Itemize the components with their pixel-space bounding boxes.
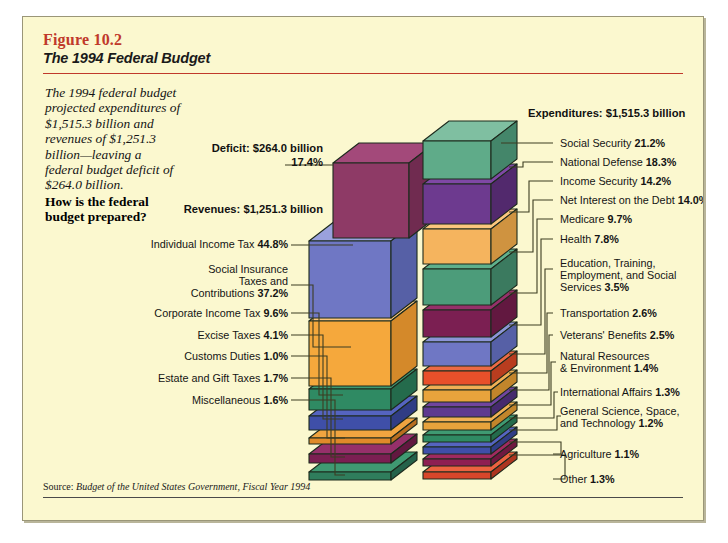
- label-health: Health 7.8%: [560, 233, 619, 245]
- figure-panel: Figure 10.2 The 1994 Federal Budget The …: [22, 16, 704, 521]
- label-national-defense: National Defense 18.3%: [560, 156, 676, 168]
- label-income-security: Income Security 14.2%: [560, 175, 671, 187]
- label-estate-gift-taxes: Estate and Gift Taxes 1.7%: [133, 372, 288, 384]
- bottom-rule: [43, 497, 683, 498]
- label-miscellaneous: Miscellaneous 1.6%: [133, 394, 288, 406]
- label-general-science: General Science, Space, and Technology 1…: [560, 405, 679, 429]
- label-excise-taxes: Excise Taxes 4.1%: [133, 329, 288, 341]
- label-international-affairs: International Affairs 1.3%: [560, 386, 680, 398]
- label-social-security: Social Security 21.2%: [560, 137, 665, 149]
- deficit-heading: Deficit: $264.0 billion 17.4%: [173, 142, 323, 169]
- bar-social-security: [423, 121, 517, 179]
- label-agriculture: Agriculture 1.1%: [560, 448, 639, 460]
- label-veterans-benefits: Veterans' Benefits 2.5%: [560, 329, 674, 341]
- label-transportation: Transportation 2.6%: [560, 307, 657, 319]
- label-customs-duties: Customs Duties 1.0%: [133, 350, 288, 362]
- label-corporate-income-tax: Corporate Income Tax 9.6%: [133, 307, 288, 319]
- label-social-insurance: Social Insurance Taxes and Contributions…: [133, 263, 288, 300]
- deficit-heading-text: Deficit: $264.0 billion: [212, 142, 323, 154]
- source-title: Budget of the United States Government, …: [76, 481, 310, 492]
- source-prefix: Source:: [43, 481, 76, 492]
- label-individual-income-tax: Individual Income Tax 44.8%: [133, 238, 288, 250]
- label-medicare: Medicare 9.7%: [560, 213, 632, 225]
- bar-deficit: [333, 143, 435, 238]
- revenues-heading: Revenues: $1,251.3 billion: [183, 203, 323, 215]
- label-education-training: Education, Training, Employment, and Soc…: [560, 257, 676, 294]
- expenditures-heading: Expenditures: $1,515.3 billion: [528, 107, 685, 119]
- label-net-interest: Net Interest on the Debt 14.0%: [560, 194, 704, 206]
- label-other: Other 1.3%: [560, 473, 615, 485]
- source-note: Source: Budget of the United States Gove…: [43, 481, 310, 492]
- deficit-heading-pct: 17.4%: [291, 156, 323, 168]
- label-natural-resources: Natural Resources & Environment 1.4%: [560, 350, 658, 374]
